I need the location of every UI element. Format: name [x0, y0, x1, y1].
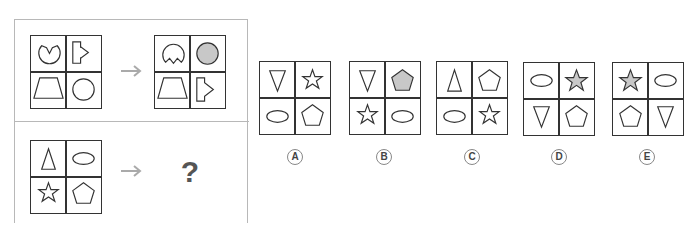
question-grid	[30, 140, 102, 214]
ellipse-icon	[267, 111, 288, 123]
pentagon-icon	[566, 106, 587, 126]
option-d-label[interactable]: D	[551, 149, 567, 165]
star-icon	[480, 105, 499, 123]
triangle-up-icon	[42, 149, 56, 169]
star-icon	[303, 70, 322, 88]
option-c-grid[interactable]	[436, 61, 508, 135]
trapezoid-icon	[158, 78, 187, 98]
star-filled-icon	[566, 70, 587, 90]
option-b-label[interactable]: B	[376, 149, 392, 165]
pentagon-icon	[73, 183, 94, 203]
ellipse-icon	[444, 111, 465, 123]
pacman-icon	[163, 44, 184, 63]
trapezoid-icon	[34, 78, 63, 98]
pacman-icon	[39, 46, 60, 64]
option-e-label[interactable]: E	[639, 149, 655, 165]
star-filled-icon	[620, 70, 641, 90]
pentagon-icon	[620, 106, 641, 126]
triangle-up-icon	[448, 70, 462, 91]
circle-filled-icon	[197, 43, 218, 64]
example-after-grid	[154, 35, 226, 109]
ellipse-icon	[392, 111, 413, 123]
option-a-label[interactable]: A	[287, 149, 303, 165]
right-arrow-icon	[120, 165, 142, 177]
pentagon-filled-icon	[392, 70, 413, 90]
option-e-grid[interactable]	[612, 62, 684, 136]
unknown-answer-mark: ?	[178, 154, 202, 190]
triangle-down-icon	[270, 71, 286, 91]
ellipse-icon	[655, 75, 676, 87]
arrow-pentagon-icon	[197, 78, 214, 101]
star-icon	[39, 183, 58, 201]
option-d-grid[interactable]	[523, 62, 595, 136]
triangle-down-icon	[360, 71, 376, 91]
right-arrow-icon	[120, 65, 142, 77]
arrow-pentagon-icon	[73, 42, 89, 63]
ellipse-icon	[73, 153, 94, 165]
frame-divider	[14, 121, 249, 122]
ellipse-icon	[531, 75, 552, 87]
option-b-grid[interactable]	[349, 61, 421, 135]
option-c-label[interactable]: C	[464, 149, 480, 165]
example-before-shapes	[31, 36, 101, 108]
star-icon	[358, 105, 377, 123]
triangle-down-icon	[658, 107, 674, 127]
example-before-grid	[30, 35, 102, 109]
pentagon-icon	[302, 105, 323, 125]
option-a-grid[interactable]	[259, 61, 331, 135]
pentagon-icon	[479, 70, 500, 90]
triangle-down-icon	[534, 107, 550, 127]
circle-icon	[73, 79, 94, 100]
